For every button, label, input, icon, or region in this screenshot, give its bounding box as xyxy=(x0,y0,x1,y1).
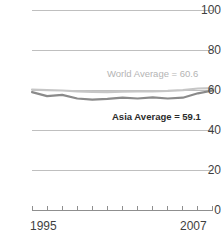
x-axis-group xyxy=(32,206,213,211)
x-axis-label-1995: 1995 xyxy=(30,220,57,232)
x-axis-label-2007: 2007 xyxy=(180,220,207,232)
chart-plot-area xyxy=(0,0,221,244)
x-axis-ticks xyxy=(33,206,213,210)
y-axis-label-60: 60 xyxy=(195,84,221,96)
chart-container: 100 80 60 40 20 0 1995 2007 World Averag… xyxy=(0,0,221,244)
y-axis-label-100: 100 xyxy=(195,4,221,16)
y-axis-label-0: 0 xyxy=(195,204,221,216)
y-axis-label-80: 80 xyxy=(195,44,221,56)
world-average-annotation: World Average = 60.6 xyxy=(107,68,198,79)
y-axis-label-20: 20 xyxy=(195,164,221,176)
y-axis-label-40: 40 xyxy=(195,124,221,136)
asia-average-annotation: Asia Average = 59.1 xyxy=(112,111,201,122)
